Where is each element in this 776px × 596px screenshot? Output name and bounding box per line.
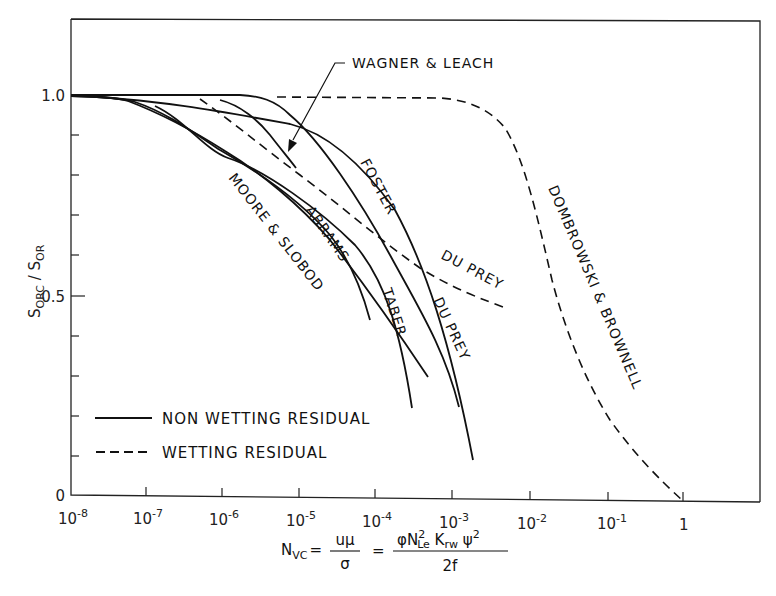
x-axis-formula: NVC= uμ σ = φN2Le Krw ψ2 2f <box>281 528 508 575</box>
formula-frac2-num: φN2Le Krw ψ2 <box>397 528 480 551</box>
label-du-prey-dashed: DU PREY <box>439 247 507 293</box>
curve-foster <box>71 95 459 407</box>
label-du-prey-solid: DU PREY <box>430 295 473 363</box>
y-axis-ticks <box>71 95 85 456</box>
y-axis-title: SORC / SOR <box>26 244 47 318</box>
label-dombrowski-brownell: DOMBROWSKI & BROWNELL <box>545 183 646 392</box>
wagner-leach-leader-line <box>293 63 345 140</box>
x-tick-label: 10-3 <box>439 511 469 532</box>
plot-frame <box>71 19 760 502</box>
label-foster: FOSTER <box>357 156 400 217</box>
x-tick-label: 10-7 <box>133 507 163 528</box>
legend-solid-label: NON WETTING RESIDUAL <box>162 410 370 428</box>
legend: NON WETTING RESIDUAL WETTING RESIDUAL <box>95 410 370 462</box>
label-wagner-leach: WAGNER & LEACH <box>352 55 494 71</box>
x-tick-label: 10-4 <box>362 510 392 531</box>
x-tick-label: 10-5 <box>286 509 316 530</box>
y-tick-label-1-0: 1.0 <box>41 87 65 105</box>
chart: 1.0 0.5 0 SORC / SOR 10-8 10-7 10-6 10-5… <box>0 0 776 596</box>
formula-frac1-den: σ <box>340 555 350 573</box>
formula-frac1-num: uμ <box>335 531 355 549</box>
label-abrams: ABRAMS <box>303 203 353 265</box>
curve-abrams <box>71 96 370 320</box>
x-tick-label: 10-2 <box>517 512 547 533</box>
arrowhead-icon <box>288 139 297 152</box>
formula-lhs: NVC= <box>281 541 322 562</box>
x-tick-label: 10-1 <box>597 512 627 533</box>
formula-frac2-den: 2f <box>443 557 459 575</box>
x-tick-label: 1 <box>679 516 689 534</box>
curve-moore-slobod <box>71 96 428 377</box>
x-tick-label: 10-6 <box>209 508 239 529</box>
y-tick-label-0: 0 <box>55 487 65 505</box>
formula-eq2: = <box>372 542 385 560</box>
legend-dashed-label: WETTING RESIDUAL <box>162 444 327 462</box>
curve-du-prey-solid <box>71 96 473 460</box>
curve-dombrowski-brownell <box>277 97 682 500</box>
x-tick-labels: 10-8 10-7 10-6 10-5 10-4 10-3 10-2 10-1 … <box>58 507 689 534</box>
x-tick-label: 10-8 <box>58 507 88 528</box>
